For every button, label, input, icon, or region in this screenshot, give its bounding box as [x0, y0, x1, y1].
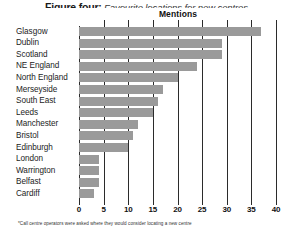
- bar: [79, 189, 94, 198]
- y-axis-tick-label: Merseyside: [16, 85, 57, 94]
- bar: [79, 27, 261, 36]
- bar: [79, 73, 178, 82]
- y-axis-tick-label: Bristol: [16, 131, 38, 140]
- y-axis-tick-label: Dublin: [16, 38, 39, 47]
- y-axis-tick-label: South East: [16, 96, 56, 105]
- x-axis-top-tick-35: [251, 20, 252, 26]
- y-axis-tick-label: Cardiff: [16, 189, 40, 198]
- bar: [79, 178, 99, 187]
- figure-title-text: Favourite locations for new centres: [102, 2, 248, 8]
- y-axis-tick-label: Edinburgh: [16, 143, 53, 152]
- y-axis-tick-label: North England: [16, 73, 68, 82]
- gridline-40: [276, 26, 277, 200]
- bar: [79, 62, 197, 71]
- x-axis-tick-label-25: 25: [192, 205, 212, 214]
- x-axis-top-tick-40: [276, 20, 277, 26]
- x-axis-tick-label-15: 15: [143, 205, 163, 214]
- y-axis-tick-label: NE England: [16, 61, 59, 70]
- x-axis-top-tick-25: [202, 20, 203, 26]
- x-axis-top-tick-30: [227, 20, 228, 26]
- figure-footnote: *Call centre operators were asked where …: [18, 221, 288, 226]
- figure-title-label: Figure four:: [45, 1, 102, 8]
- bar: [79, 155, 99, 164]
- y-axis-tick-label: Warrington: [16, 166, 55, 175]
- figure-title: Figure four: Favourite locations for new…: [0, 0, 293, 8]
- x-axis-tick-label-35: 35: [241, 205, 261, 214]
- y-axis-tick-label: Leeds: [16, 108, 38, 117]
- x-axis-tick-label-10: 10: [118, 205, 138, 214]
- bar: [79, 85, 163, 94]
- bar: [79, 131, 133, 140]
- plot-area: [79, 26, 276, 200]
- bar: [79, 39, 222, 48]
- figure-container: Figure four: Favourite locations for new…: [0, 0, 293, 234]
- x-axis-top-tick-15: [153, 20, 154, 26]
- bar: [79, 50, 222, 59]
- x-axis-top-tick-20: [178, 20, 179, 26]
- y-axis-tick-label: Glasgow: [16, 27, 48, 36]
- bar: [79, 108, 153, 117]
- bar: [79, 120, 138, 129]
- x-axis-top-tick-10: [128, 20, 129, 26]
- x-axis-tick-label-0: 0: [69, 205, 89, 214]
- x-axis-tick-label-40: 40: [266, 205, 286, 214]
- y-axis-labels: GlasgowDublinScotlandNE EnglandNorth Eng…: [16, 26, 76, 200]
- y-axis-tick-label: London: [16, 154, 43, 163]
- x-axis-title: Mentions: [79, 9, 277, 19]
- y-axis-tick-label: Manchester: [16, 119, 58, 128]
- bar: [79, 97, 158, 106]
- x-axis-tick-label-20: 20: [168, 205, 188, 214]
- bar: [79, 166, 99, 175]
- y-axis-tick-label: Belfast: [16, 177, 41, 186]
- x-axis-tick-label-30: 30: [217, 205, 237, 214]
- gridline-30: [227, 26, 228, 200]
- y-axis-tick-label: Scotland: [16, 50, 47, 59]
- x-axis-top-tick-5: [104, 20, 105, 26]
- x-axis-tick-label-5: 5: [94, 205, 114, 214]
- bar: [79, 143, 128, 152]
- gridline-35: [251, 26, 252, 200]
